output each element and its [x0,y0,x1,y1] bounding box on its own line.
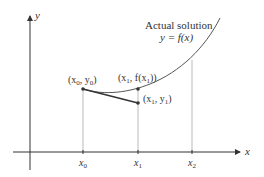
label-x1-y1: (x1, y1) [143,93,172,106]
point-x0-y0 [81,87,85,91]
label-x0-y0: (x0, y0) [68,74,97,87]
tick-label-x2: x2 [187,157,196,170]
label-x1-fx1: (x1, f(x1)) [118,72,157,85]
x-axis-label: x [244,145,250,157]
curve-equation: y = f(x) [159,31,193,44]
y-axis-label: y [34,9,40,21]
euler-step-line [83,89,138,103]
tick-label-x0: x0 [78,157,87,170]
tick-label-x1: x1 [133,157,142,170]
point-x1-fx1 [136,87,140,91]
curve-title: Actual solution [145,19,213,31]
point-x1-y1 [136,101,140,105]
euler-method-diagram: y x x0 x1 x2 (x0, y0) (x1, f(x1)) (x1, y… [0,0,264,177]
